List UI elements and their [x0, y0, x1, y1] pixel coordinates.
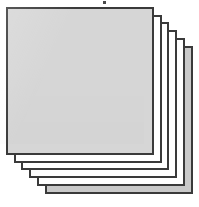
scan-speck [103, 1, 106, 4]
figure-canvas [0, 0, 199, 207]
sheet-front [6, 7, 154, 155]
scan-top-band [0, 0, 199, 7]
